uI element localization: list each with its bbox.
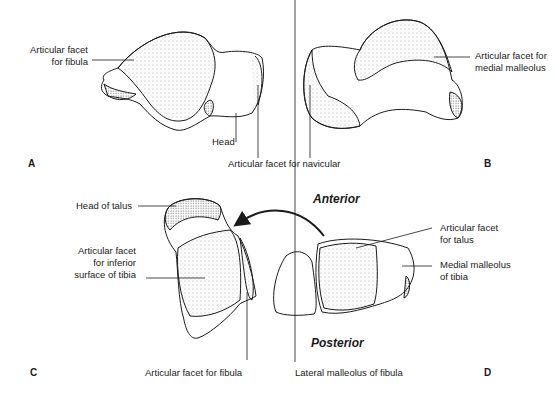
- label-d-lateral-malleolus-fibula: Lateral malleolus of fibula: [295, 367, 403, 379]
- label-a-articular-facet-fibula: Articular facet for fibula: [22, 44, 88, 68]
- label-d-articular-facet-talus: Articular facet for talus: [440, 222, 498, 246]
- panel-letter-d: D: [484, 367, 491, 378]
- label-c-articular-facet-tibia: Articular facet for inferior surface of …: [60, 245, 136, 281]
- panel-letter-a: A: [28, 158, 35, 169]
- panel-letter-c: C: [30, 367, 37, 378]
- label-c-head-of-talus: Head of talus: [76, 200, 132, 212]
- rotation-arrow-icon: [240, 211, 324, 236]
- posterior-label: Posterior: [311, 336, 364, 350]
- label-b-articular-facet-medial-malleolus: Articular facet for medial malleolus: [475, 50, 547, 74]
- talus-medial-view: [304, 20, 463, 128]
- label-d-medial-malleolus-tibia: Medial malleolus of tibia: [440, 259, 511, 283]
- label-c-articular-facet-fibula: Articular facet for fibula: [145, 367, 242, 379]
- panel-letter-b: B: [484, 158, 491, 169]
- talus-lateral-view: [101, 32, 263, 130]
- anterior-label: Anterior: [313, 192, 360, 206]
- label-a-head: Head: [212, 136, 235, 148]
- label-articular-facet-navicular: Articular facet for navicular: [228, 158, 340, 170]
